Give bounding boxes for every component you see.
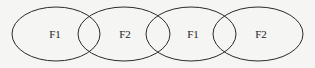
ellipses-layer xyxy=(0,0,315,68)
ellipse-2-label: F2 xyxy=(119,28,131,40)
ellipse-1-label: F1 xyxy=(49,28,61,40)
ellipse-3-label: F1 xyxy=(187,28,199,40)
venn-chain-diagram: F1 F2 F1 F2 xyxy=(0,0,315,68)
ellipse-4-label: F2 xyxy=(255,28,267,40)
